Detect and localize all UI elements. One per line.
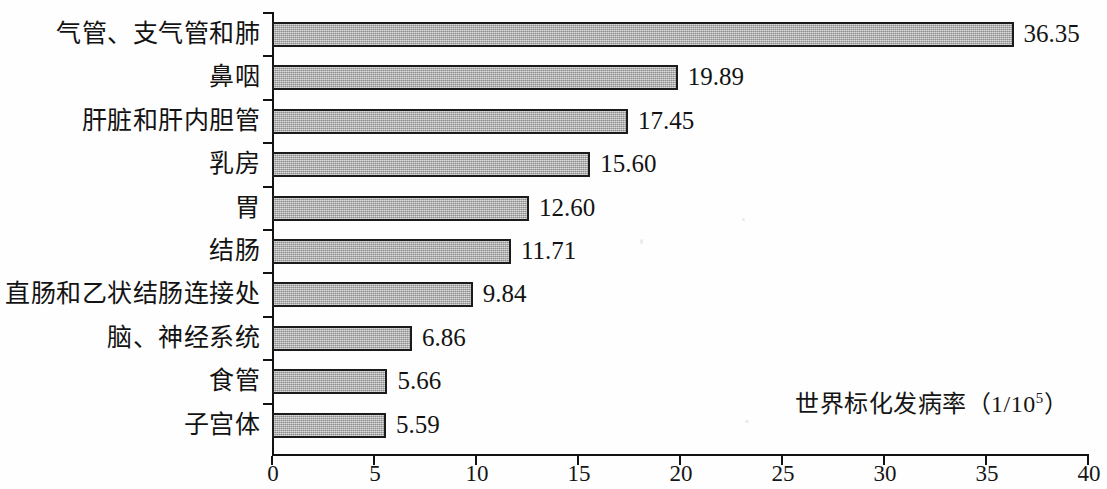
- bar-value-label: 9.84: [483, 280, 527, 308]
- bar: [272, 239, 511, 264]
- y-axis-tick: [263, 142, 272, 144]
- x-axis-tick-label: 5: [345, 462, 405, 485]
- category-label: 气管、支气管和肺: [0, 20, 260, 48]
- bar-value-label: 6.86: [422, 324, 466, 352]
- bar: [272, 369, 387, 394]
- y-axis-tick: [263, 403, 272, 405]
- x-axis-title: 世界标化发病率（1/105）: [795, 390, 1068, 418]
- bar-value-label: 5.66: [397, 367, 441, 395]
- bar-value-label: 36.35: [1024, 20, 1080, 48]
- category-label: 脑、神经系统: [0, 324, 260, 352]
- category-label: 肝脏和肝内胆管: [0, 107, 260, 135]
- bar: [272, 326, 412, 351]
- y-axis-tick: [263, 359, 272, 361]
- category-label: 直肠和乙状结肠连接处: [0, 280, 260, 308]
- bar: [272, 282, 473, 307]
- x-axis-tick-label: 25: [753, 462, 813, 485]
- category-label: 子宫体: [0, 411, 260, 439]
- y-axis-tick: [263, 99, 272, 101]
- bar-value-label: 19.89: [688, 63, 744, 91]
- x-axis-tick-label: 35: [957, 462, 1017, 485]
- y-axis-tick: [263, 229, 272, 231]
- x-axis-tick-label: 20: [651, 462, 711, 485]
- x-axis-title-prefix: 世界标化发病率（1/10: [795, 391, 1036, 417]
- bar: [272, 65, 678, 90]
- category-label: 鼻咽: [0, 63, 260, 91]
- x-axis-tick-label: 30: [855, 462, 915, 485]
- bar: [272, 22, 1014, 47]
- bar-value-label: 15.60: [600, 150, 656, 178]
- y-axis-tick: [263, 55, 272, 57]
- y-axis-tick: [263, 316, 272, 318]
- bar-chart: 世界标化发病率（1/105） 051015202530354036.35气管、支…: [0, 0, 1107, 489]
- bar: [272, 109, 628, 134]
- bar-value-label: 12.60: [539, 194, 595, 222]
- x-axis-tick-label: 15: [549, 462, 609, 485]
- category-label: 食管: [0, 367, 260, 395]
- bar: [272, 413, 386, 438]
- x-axis-title-exponent: 5: [1036, 390, 1044, 406]
- bar: [272, 196, 529, 221]
- bar-value-label: 17.45: [638, 107, 694, 135]
- category-label: 乳房: [0, 150, 260, 178]
- bar: [272, 152, 590, 177]
- category-label: 胃: [0, 194, 260, 222]
- y-axis-tick: [263, 12, 272, 14]
- category-label: 结肠: [0, 237, 260, 265]
- x-axis-tick-label: 10: [447, 462, 507, 485]
- x-axis-tick-label: 0: [243, 462, 303, 485]
- bar-value-label: 11.71: [521, 237, 576, 265]
- x-axis-tick-label: 40: [1059, 462, 1107, 485]
- x-axis-title-suffix: ）: [1044, 391, 1069, 417]
- bar-value-label: 5.59: [396, 411, 440, 439]
- y-axis-tick: [263, 186, 272, 188]
- y-axis-tick: [263, 272, 272, 274]
